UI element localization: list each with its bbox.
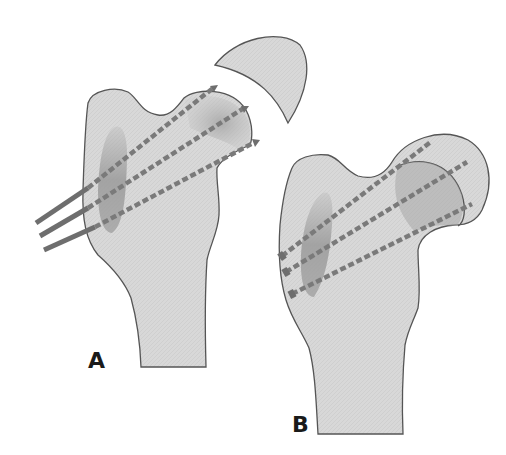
panel-label-b: B <box>292 414 309 436</box>
femur-fixation-figure <box>0 0 506 455</box>
panel-b <box>277 134 489 434</box>
panel-label-a: A <box>88 350 105 372</box>
panel-a <box>36 37 307 367</box>
